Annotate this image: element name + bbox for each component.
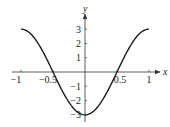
y-tick-label: 3 [76,24,81,35]
y-tick-label: −1 [70,81,81,92]
cosine-plot: x y −1−0.50.51 321−1−2−3 [0,0,170,127]
x-tick-label: 1 [147,74,152,85]
y-tick-label: 1 [76,52,81,63]
x-axis-label: x [162,66,168,77]
y-tick-label: −2 [70,95,81,106]
y-tick-label: 2 [76,38,81,49]
x-tick-label: −1 [11,74,22,85]
y-axis-label: y [82,3,88,14]
